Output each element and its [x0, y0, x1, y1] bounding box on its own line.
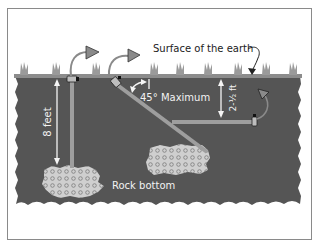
surface-label: Surface of the earth [153, 43, 253, 54]
angle-label: 45° Maximum [140, 92, 210, 103]
rock-bottom-left [42, 165, 104, 198]
ground-rod-diagram: 8 feet 45° Maximum 2-½ ft Surface of the… [0, 0, 319, 246]
rod-clamp-icon [67, 76, 77, 82]
rock-bottom-label: Rock bottom [112, 180, 175, 191]
depth-8ft-label: 8 feet [42, 107, 53, 136]
depth-2-5ft-label: 2-½ ft [228, 84, 238, 112]
rod-clamp-icon [252, 117, 257, 126]
